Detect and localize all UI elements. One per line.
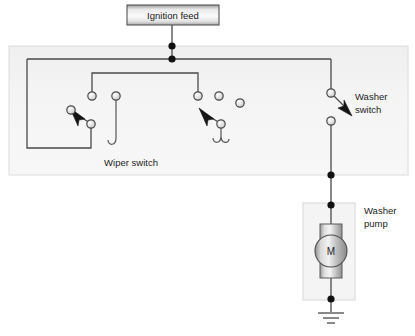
wiring-diagram: M Ignition feed Wiper switch Washer swit… <box>0 0 415 336</box>
terminal-right-lower-contact[interactable] <box>217 120 225 128</box>
terminal-centre-park[interactable] <box>112 92 120 100</box>
terminal-right-upper-pole[interactable] <box>194 92 202 100</box>
terminal-left-blade-pivot[interactable] <box>67 106 75 114</box>
terminal-spare-b[interactable] <box>236 99 244 107</box>
washer-switch-label-line2: switch <box>355 104 381 115</box>
washer-pump-label-line2: pump <box>364 218 388 229</box>
junction-feed-bus <box>168 55 175 62</box>
junction-washer-panel-exit <box>327 171 334 178</box>
motor-symbol-letter: M <box>327 246 335 257</box>
terminal-upper-left-pole[interactable] <box>88 92 96 100</box>
terminal-washer-upper[interactable] <box>327 89 335 97</box>
wiper-switch-label: Wiper switch <box>104 157 158 168</box>
washer-pump-label-line1: Washer <box>364 205 396 216</box>
terminal-spare-a[interactable] <box>215 92 223 100</box>
diagram-canvas: M Ignition feed Wiper switch Washer swit… <box>0 0 415 336</box>
terminal-washer-lower[interactable] <box>327 117 335 125</box>
washer-switch-label-line1: Washer <box>355 91 387 102</box>
junction-pump-bottom <box>327 295 334 302</box>
terminal-left-lower-contact[interactable] <box>87 120 95 128</box>
junction-pump-top <box>327 201 334 208</box>
ignition-feed-label: Ignition feed <box>147 10 199 21</box>
junction-feed-panel-entry <box>168 42 175 49</box>
